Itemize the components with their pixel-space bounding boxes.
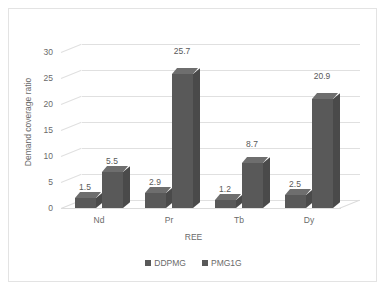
plot-area: 30 25 20 15 10 5 0 Demand coverage ratio…: [9, 9, 378, 283]
floor-right-edge: [339, 200, 360, 209]
gridline-diagonal-10: [61, 148, 82, 157]
bar-label-dy-ddpmg: 2.5: [275, 179, 315, 189]
bar-label-nd-pmg1g: 5.5: [92, 156, 132, 166]
legend-label-ddpmg: DDPMG: [154, 258, 186, 268]
bar-label-tb-pmg1g: 8.7: [232, 139, 272, 149]
bar-label-pr-ddpmg: 2.9: [135, 177, 175, 187]
legend-item-ddpmg[interactable]: DDPMG: [145, 258, 186, 268]
bar-dy-pmg1g: [312, 84, 333, 208]
gridline-diagonal-25: [61, 70, 82, 79]
bar-front-face: [102, 172, 123, 208]
gridline-diagonal-20: [61, 96, 82, 105]
bar-front-face: [172, 74, 193, 208]
x-tick-tb: Tb: [209, 215, 269, 225]
bar-front-face: [312, 99, 333, 208]
bar-front-face: [285, 195, 306, 208]
legend-swatch-icon: [202, 260, 208, 266]
x-tick-pr: Pr: [139, 215, 199, 225]
y-tick-25: 25: [31, 73, 53, 83]
bar-side-face: [123, 166, 130, 208]
gridline-diagonal-30: [61, 44, 82, 53]
chart-frame: 30 25 20 15 10 5 0 Demand coverage ratio…: [8, 8, 377, 282]
gridline-30: [82, 44, 360, 45]
bar-pr-pmg1g: [172, 59, 193, 208]
bar-front-face: [75, 198, 96, 208]
y-tick-10: 10: [31, 151, 53, 161]
legend-swatch-icon: [145, 260, 151, 266]
chart-legend: DDPMG PMG1G: [9, 258, 378, 268]
y-axis-title: Demand coverage ratio: [23, 67, 33, 177]
bar-front-face: [145, 193, 166, 208]
bar-label-nd-ddpmg: 1.5: [65, 182, 105, 192]
bar-tb-pmg1g: [242, 143, 263, 208]
bar-side-face: [263, 157, 270, 208]
legend-item-pmg1g[interactable]: PMG1G: [202, 258, 242, 268]
y-tick-20: 20: [31, 99, 53, 109]
bar-nd-pmg1g: [102, 159, 123, 208]
x-tick-dy: Dy: [279, 215, 339, 225]
y-tick-5: 5: [31, 177, 53, 187]
bar-label-pr-pmg1g: 25.7: [162, 46, 202, 56]
bar-front-face: [215, 200, 236, 208]
bar-side-face: [193, 68, 200, 208]
x-tick-nd: Nd: [69, 215, 129, 225]
y-tick-30: 30: [31, 47, 53, 57]
floor-front-edge: [61, 208, 341, 209]
bar-label-dy-pmg1g: 20.9: [302, 71, 342, 81]
y-tick-15: 15: [31, 125, 53, 135]
y-tick-0: 0: [31, 203, 53, 213]
legend-label-pmg1g: PMG1G: [211, 258, 242, 268]
gridline-diagonal-15: [61, 122, 82, 131]
bar-front-face: [242, 163, 263, 208]
bar-label-tb-ddpmg: 1.2: [205, 184, 245, 194]
x-axis-title: REE: [9, 232, 378, 242]
bar-side-face: [333, 93, 340, 208]
